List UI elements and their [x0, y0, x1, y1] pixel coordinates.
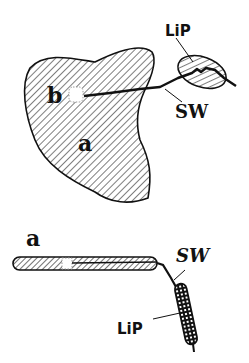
label-b: b [47, 82, 62, 108]
leader-lip-side [153, 313, 180, 319]
top-view: b a LiP SW [25, 22, 236, 202]
region-b-top [69, 87, 83, 102]
label-a-top: a [78, 130, 92, 156]
sw-inner-side [72, 262, 157, 263]
sw-strand-side [157, 263, 176, 287]
leader-sw-side [174, 270, 185, 280]
label-sw-side: SW [176, 245, 211, 266]
side-view: a SW LiP [13, 225, 211, 352]
region-b-side [62, 258, 72, 269]
label-lip-side: LiP [117, 320, 143, 338]
label-lip-top: LiP [165, 22, 191, 40]
diagram-figure: b a LiP SW a SW LiP [0, 0, 249, 363]
label-sw-top: SW [175, 101, 209, 122]
label-a-side: a [26, 225, 40, 251]
lip-tail [193, 344, 194, 352]
region-a-top [25, 48, 155, 202]
